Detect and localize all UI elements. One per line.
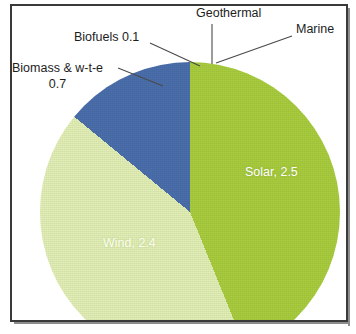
- figure-border-shadow-bottom: [14, 322, 350, 324]
- callout-label-biomass: Biomass & w-t-e 0.7: [12, 60, 103, 93]
- callout-label-geothermal: Geothermal: [196, 6, 261, 21]
- callout-label-marine: Marine: [296, 22, 334, 37]
- callout-label-biofuels: Biofuels 0.1: [74, 30, 139, 45]
- pie-graphic: [40, 62, 340, 320]
- figure-border-shadow-right: [348, 8, 350, 326]
- callout-label-biomass-line2: 0.7: [12, 76, 103, 92]
- pie-chart-figure: Solar, 2.5 Wind, 2.4 Geothermal Marine B…: [0, 0, 356, 334]
- pie-clip-region: [12, 6, 346, 320]
- callout-label-biomass-line1: Biomass & w-t-e: [12, 60, 103, 76]
- scan-grain-overlay: [40, 62, 340, 320]
